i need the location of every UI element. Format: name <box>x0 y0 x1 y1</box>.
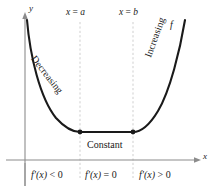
vline-a-eq: = <box>73 7 78 17</box>
sign-label-positive: f'(x) > 0 <box>139 170 171 180</box>
sign-negative-prime: f'(x) <box>31 169 47 180</box>
vertical-line-label-a: x = a <box>66 8 85 18</box>
curve-label-f: f <box>170 20 173 30</box>
vline-a-val: a <box>80 7 85 17</box>
x-axis-label: x <box>203 152 207 161</box>
vline-b-var: x <box>119 7 123 17</box>
sign-positive-prime: f'(x) <box>139 169 155 180</box>
y-axis-label: y <box>29 4 33 13</box>
vline-b-eq: = <box>126 7 131 17</box>
vline-a-var: x <box>66 7 70 17</box>
sign-label-negative: f'(x) < 0 <box>31 170 63 180</box>
sign-zero-prime: f'(x) <box>85 169 101 180</box>
endpoint-dot-b <box>131 130 136 135</box>
figure-canvas <box>0 0 218 189</box>
y-axis-arrowhead <box>22 12 27 19</box>
derivative-sign-figure: y x f x = a x = b Decreasing Increasing … <box>0 0 218 189</box>
sign-positive-relation: > 0 <box>158 169 171 180</box>
x-axis-arrowhead <box>194 157 201 162</box>
vertical-line-label-b: x = b <box>119 8 138 18</box>
vline-b-val: b <box>133 7 138 17</box>
sign-negative-relation: < 0 <box>50 169 63 180</box>
endpoint-dot-a <box>78 130 83 135</box>
region-label-constant: Constant <box>87 140 123 150</box>
sign-zero-relation: = 0 <box>104 169 117 180</box>
sign-label-zero: f'(x) = 0 <box>85 170 117 180</box>
